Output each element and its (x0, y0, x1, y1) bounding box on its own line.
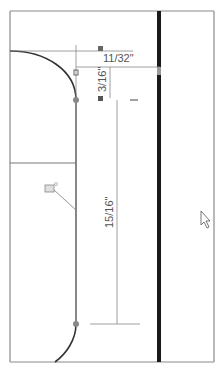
sketch-profile[interactable] (10, 51, 76, 362)
dim-label-11-32[interactable]: 11/32" (103, 52, 134, 64)
arrow-cursor-icon (201, 211, 210, 228)
dimension-3-16[interactable]: 3/16" (96, 67, 110, 98)
coincident-relation-icon[interactable] (45, 183, 76, 211)
dim-label-3-16[interactable]: 3/16" (96, 67, 108, 92)
endpoint-handle (73, 97, 79, 103)
square-handle (98, 96, 103, 101)
bottom-fillet-arc (55, 324, 76, 362)
sketch-canvas[interactable]: 11/32" 3/16" 15/16" (0, 0, 224, 369)
dim-label-15-16[interactable]: 15/16" (103, 196, 115, 228)
dimension-15-16[interactable]: 15/16" (90, 100, 140, 324)
rail-handle (157, 67, 161, 75)
top-fillet-arc (10, 51, 76, 100)
endpoint-handle (73, 321, 79, 327)
vertical-rail[interactable] (157, 11, 161, 362)
square-handle (98, 46, 103, 51)
